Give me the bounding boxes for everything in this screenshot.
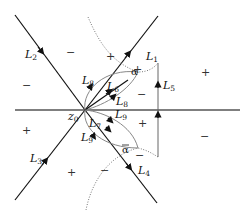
sign-right-upper-far: +	[201, 66, 210, 79]
arrow-L4-icon	[126, 163, 130, 168]
label-L4: L4	[137, 164, 150, 178]
sign-right-lower-inner: +	[138, 117, 147, 130]
arrow-L7-icon	[106, 127, 109, 130]
sign-right-upper-inner: −	[137, 88, 146, 101]
label-z0: z0	[67, 110, 79, 124]
label-L9-lower: L9	[80, 131, 93, 145]
sign-near-alpha: +	[133, 63, 142, 76]
sign-right-lower-far: −	[200, 130, 209, 143]
label-alpha-bar: α	[122, 144, 129, 155]
contour-L2	[15, 15, 85, 110]
label-L2: L2	[24, 48, 37, 62]
sign-lower-middle: +	[67, 166, 76, 179]
label-L7: L7	[88, 117, 101, 131]
sign-upper-middle: +	[106, 50, 115, 63]
label-L3: L3	[29, 152, 42, 166]
arrow-L3-icon	[42, 160, 46, 165]
label-L5: L5	[162, 79, 175, 93]
label-L8-upper: L8	[81, 74, 94, 88]
dotted-curve-upper	[88, 17, 158, 72]
sign-left-middle: −	[22, 79, 31, 92]
arrow-L2-icon	[38, 47, 42, 52]
sign-lower-dotted: −	[100, 164, 109, 177]
sign-near-alpha-bar: −	[135, 149, 144, 162]
label-L1: L1	[145, 50, 158, 64]
sign-upper-left: −	[66, 46, 75, 59]
arrow-L1-icon	[125, 53, 129, 58]
label-L8-lower: L8	[115, 95, 128, 109]
sign-left-lower: +	[22, 124, 31, 137]
arrow-L9a-icon	[108, 118, 111, 121]
label-L6: L6	[106, 80, 119, 94]
contour-diagram: L1 L2 L3 L4 L5 L6 L7 L8 L8 L9 L9 z0 α α …	[0, 0, 244, 219]
